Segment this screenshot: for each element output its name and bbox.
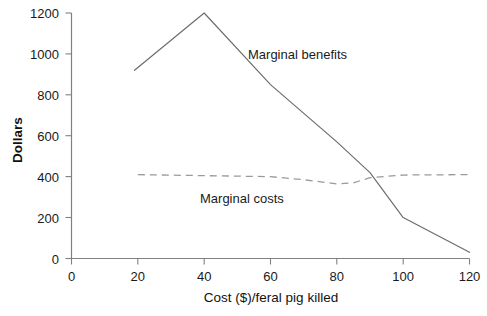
series-line-marginal-costs — [138, 175, 470, 184]
y-tick-label-400: 400 — [14, 170, 59, 183]
series-label-marginal-benefits: Marginal benefits — [248, 48, 347, 61]
chart-container: 1200 1000 800 600 400 200 0 0 20 40 60 8… — [0, 0, 487, 316]
y-tick-label-1000: 1000 — [14, 47, 59, 60]
x-tick-label-20: 20 — [131, 270, 145, 283]
y-tick-label-1200: 1200 — [14, 7, 59, 20]
x-tick-label-0: 0 — [68, 270, 75, 283]
x-tick-label-60: 60 — [263, 270, 277, 283]
x-axis-title: Cost ($)/feral pig killed — [204, 291, 338, 305]
y-tick-label-800: 800 — [14, 88, 59, 101]
y-axis-ticks — [66, 13, 72, 259]
y-axis-title: Dollars — [11, 117, 25, 163]
series-label-marginal-costs: Marginal costs — [200, 192, 284, 205]
y-tick-label-200: 200 — [14, 211, 59, 224]
x-tick-label-120: 120 — [459, 270, 481, 283]
x-axis-ticks — [72, 259, 470, 265]
x-tick-label-40: 40 — [197, 270, 211, 283]
x-tick-label-80: 80 — [330, 270, 344, 283]
x-tick-label-100: 100 — [392, 270, 414, 283]
y-tick-label-0: 0 — [14, 252, 59, 265]
